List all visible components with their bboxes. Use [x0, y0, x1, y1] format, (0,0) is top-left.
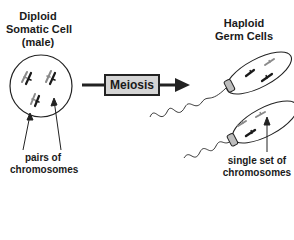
- annotation-line: pairs of: [10, 152, 76, 164]
- germ-cell-1: [150, 44, 294, 117]
- annotation-line: chromosomes: [219, 167, 294, 179]
- annotation-line: single set of: [219, 155, 294, 167]
- diploid-cell: [10, 55, 72, 117]
- meiosis-label: Meiosis: [110, 78, 154, 92]
- germ-cell-2: [184, 93, 294, 158]
- single-set-of-chromosomes-label: single set of chromosomes: [219, 155, 294, 179]
- chromosome-pairs: [22, 71, 55, 106]
- process-arrow-head: [175, 78, 190, 92]
- meiosis-process-box: Meiosis: [104, 74, 160, 96]
- pairs-annotation-arrows: [23, 98, 61, 150]
- single-set-annotation-arrow: [264, 117, 270, 152]
- pairs-of-chromosomes-label: pairs of chromosomes: [10, 152, 76, 176]
- annotation-line: chromosomes: [10, 164, 76, 176]
